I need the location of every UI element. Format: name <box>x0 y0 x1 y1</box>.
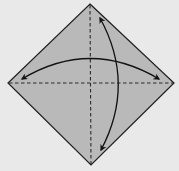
origami-diagram <box>0 0 179 171</box>
diagram-svg <box>0 0 179 171</box>
